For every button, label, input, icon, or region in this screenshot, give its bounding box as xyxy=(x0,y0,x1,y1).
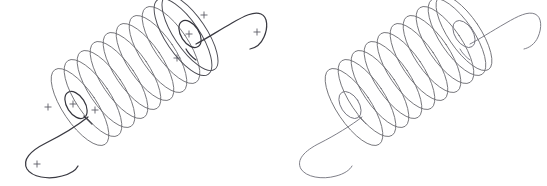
right-coil-group xyxy=(300,0,541,178)
right-coil-turn xyxy=(418,0,497,84)
right-coil-figure xyxy=(0,0,547,186)
figure-canvas xyxy=(0,0,547,186)
right-loop-coil-connector-upper xyxy=(460,49,470,60)
right-lead-wire-lower xyxy=(300,117,362,178)
